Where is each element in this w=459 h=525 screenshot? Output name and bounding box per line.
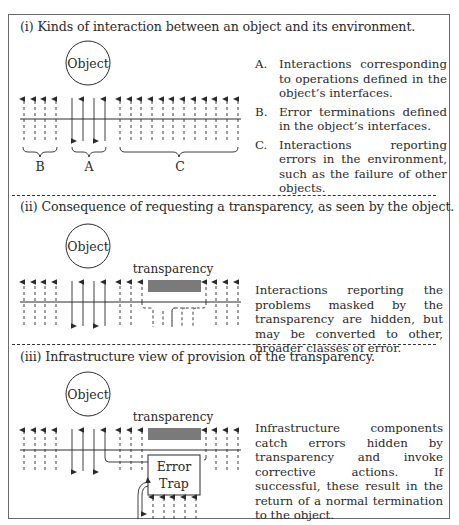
masked-error-paths bbox=[142, 302, 206, 327]
error-trap-label: Trap bbox=[159, 476, 189, 491]
brace-label-b: B bbox=[35, 159, 44, 174]
transparency-bar bbox=[148, 280, 201, 292]
transparency-bar bbox=[148, 428, 201, 440]
operation-arrows bbox=[72, 281, 105, 326]
object-label: Object bbox=[67, 56, 109, 71]
brace-c bbox=[120, 147, 238, 157]
diagram-canvas: Object bbox=[0, 0, 459, 525]
brace-label-c: C bbox=[175, 159, 185, 174]
brace-a bbox=[72, 147, 106, 157]
error-trap-label: Error bbox=[157, 459, 192, 474]
transparency-label: transparency bbox=[133, 262, 214, 276]
object-label: Object bbox=[67, 239, 109, 254]
trapped-error-arrows bbox=[153, 497, 196, 519]
brace-label-a: A bbox=[83, 159, 94, 174]
brace-b bbox=[23, 147, 57, 157]
section-i-diagram: Object bbox=[20, 41, 241, 174]
braces bbox=[23, 147, 238, 157]
corrective-action-paths bbox=[138, 482, 148, 519]
transparency-label: transparency bbox=[133, 410, 214, 424]
error-termination-arrows bbox=[24, 282, 56, 325]
section-ii-diagram: Object transparency bbox=[20, 224, 241, 327]
section-iii-diagram: Object transparency Error bbox=[20, 372, 241, 519]
object-label: Object bbox=[67, 387, 109, 402]
